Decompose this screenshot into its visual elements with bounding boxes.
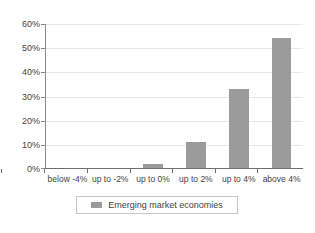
bar-slot bbox=[174, 24, 217, 168]
y-axis-tick-label: 10% bbox=[0, 140, 40, 149]
legend-entry-label: Emerging market economies bbox=[108, 200, 223, 210]
legend-swatch-icon bbox=[91, 202, 102, 208]
y-axis-tick-label: 60% bbox=[0, 20, 40, 29]
bar-slot bbox=[217, 24, 260, 168]
bar-chart: 60% 50% 40% 30% 20% 10% 0% bbox=[0, 0, 315, 233]
x-axis-category-label: above 4% bbox=[260, 174, 303, 184]
y-axis-tick bbox=[41, 48, 45, 49]
y-axis-tick bbox=[41, 121, 45, 122]
x-axis-tick bbox=[87, 169, 88, 173]
y-axis-tick bbox=[41, 97, 45, 98]
y-axis-tick-label: 20% bbox=[0, 116, 40, 125]
plot-area bbox=[45, 24, 303, 169]
bar bbox=[229, 89, 249, 168]
bar bbox=[272, 38, 292, 168]
x-axis-labels: below -4% up to -2% up to 0% up to 2% up… bbox=[46, 174, 303, 184]
bars bbox=[46, 24, 303, 168]
x-axis-category-label: up to 4% bbox=[217, 174, 260, 184]
chart-legend: Emerging market economies bbox=[76, 196, 238, 214]
bar-slot bbox=[260, 24, 303, 168]
x-axis-ticks bbox=[1, 169, 315, 173]
x-axis-category-label: up to -2% bbox=[89, 174, 132, 184]
x-axis-tick bbox=[257, 169, 258, 173]
y-axis-tick bbox=[41, 24, 45, 25]
x-axis-tick bbox=[1, 169, 2, 173]
x-axis-tick bbox=[44, 169, 45, 173]
bar bbox=[186, 142, 206, 168]
bar-slot bbox=[132, 24, 175, 168]
x-axis-category-label: up to 0% bbox=[132, 174, 175, 184]
bar-slot bbox=[46, 24, 89, 168]
x-axis-category-label: up to 2% bbox=[174, 174, 217, 184]
y-axis-labels: 60% 50% 40% 30% 20% 10% 0% bbox=[0, 24, 40, 169]
x-axis-tick bbox=[172, 169, 173, 173]
y-axis-tick-label: 30% bbox=[0, 92, 40, 101]
x-axis-category-label: below -4% bbox=[46, 174, 89, 184]
x-axis-tick bbox=[215, 169, 216, 173]
y-axis-tick-label: 40% bbox=[0, 68, 40, 77]
y-axis-tick-label: 50% bbox=[0, 44, 40, 53]
x-axis-tick bbox=[130, 169, 131, 173]
y-axis-tick bbox=[41, 72, 45, 73]
y-axis-tick bbox=[41, 145, 45, 146]
bar-slot bbox=[89, 24, 132, 168]
